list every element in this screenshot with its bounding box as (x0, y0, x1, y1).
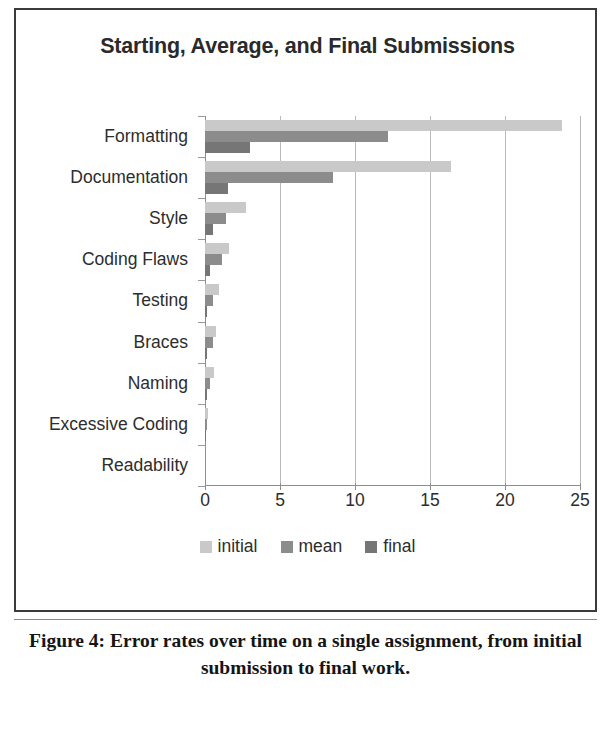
y-axis-tick (198, 404, 205, 405)
x-axis-tick (280, 483, 281, 490)
bar-group (205, 116, 580, 157)
y-axis-label: Coding Flaws (16, 239, 197, 280)
chart-legend: initialmeanfinal (16, 536, 599, 557)
bar-final (205, 306, 207, 317)
y-axis-tick (198, 239, 205, 240)
legend-swatch-icon (281, 541, 293, 553)
y-axis-tick (198, 198, 205, 199)
y-axis-tick (198, 280, 205, 281)
bar-final (205, 142, 250, 153)
bar-final (205, 389, 207, 400)
bar-final (205, 183, 228, 194)
legend-label: mean (299, 536, 343, 557)
bar-mean (205, 213, 226, 224)
bar-mean (205, 419, 207, 430)
bar-group (205, 157, 580, 198)
legend-item-final[interactable]: final (365, 536, 415, 557)
x-axis-tick-labels: 0510152025 (205, 490, 580, 522)
bar-mean (205, 254, 222, 265)
bar-group (205, 280, 580, 321)
y-axis-label: Formatting (16, 116, 197, 157)
x-axis-tick-label: 15 (420, 490, 439, 511)
y-axis-tick (198, 116, 205, 117)
y-axis-label: Excessive Coding (16, 404, 197, 445)
legend-item-initial[interactable]: initial (200, 536, 258, 557)
bar-group (205, 239, 580, 280)
bar-initial (205, 326, 216, 337)
bar-group (205, 322, 580, 363)
y-axis-label: Braces (16, 322, 197, 363)
bar-mean (205, 172, 333, 183)
bar-mean (205, 337, 213, 348)
y-axis-tick (198, 157, 205, 158)
x-axis-tick-label: 25 (570, 490, 589, 511)
bar-initial (205, 202, 246, 213)
bar-final (205, 348, 207, 359)
x-axis-tick (505, 483, 506, 490)
x-axis-tick-label: 0 (200, 490, 210, 511)
y-axis-tick (198, 322, 205, 323)
bar-initial (205, 408, 208, 419)
caption-divider (14, 619, 597, 620)
figure-caption: Figure 4: Error rates over time on a sin… (20, 628, 591, 682)
legend-swatch-icon (365, 541, 377, 553)
bar-group (205, 445, 580, 486)
bar-initial (205, 243, 229, 254)
y-axis-tick (198, 486, 205, 487)
bar-group (205, 363, 580, 404)
y-axis-tick (198, 363, 205, 364)
bars-layer (205, 116, 580, 486)
bar-group (205, 404, 580, 445)
y-axis-category-labels: FormattingDocumentationStyleCoding Flaws… (16, 116, 197, 486)
y-axis-label: Documentation (16, 157, 197, 198)
x-axis-line (205, 485, 580, 486)
x-axis-tick-label: 20 (495, 490, 514, 511)
legend-label: final (383, 536, 415, 557)
x-axis-tick (205, 483, 206, 490)
bar-initial (205, 161, 451, 172)
y-axis-tick (198, 445, 205, 446)
bar-final (205, 224, 213, 235)
legend-label: initial (218, 536, 258, 557)
x-axis-tick (580, 483, 581, 490)
bar-final (205, 430, 206, 441)
bar-mean (205, 378, 210, 389)
y-axis-label: Readability (16, 445, 197, 486)
x-axis-tick-label: 10 (345, 490, 364, 511)
bar-initial (205, 284, 219, 295)
bar-group (205, 198, 580, 239)
bar-initial (205, 367, 214, 378)
y-axis-label: Naming (16, 363, 197, 404)
gridline (580, 116, 581, 486)
figure-frame: Starting, Average, and Final Submissions… (14, 8, 597, 612)
legend-swatch-icon (200, 541, 212, 553)
legend-item-mean[interactable]: mean (281, 536, 343, 557)
chart-title: Starting, Average, and Final Submissions (16, 32, 599, 60)
y-axis-label: Style (16, 198, 197, 239)
x-axis-tick (355, 483, 356, 490)
x-axis-tick-label: 5 (275, 490, 285, 511)
bar-mean (205, 295, 213, 306)
bar-mean (205, 131, 388, 142)
bar-final (205, 265, 210, 276)
x-axis-tick (430, 483, 431, 490)
plot-area (205, 116, 580, 486)
bar-chart: FormattingDocumentationStyleCoding Flaws… (16, 116, 599, 556)
bar-initial (205, 120, 562, 131)
y-axis-label: Testing (16, 280, 197, 321)
